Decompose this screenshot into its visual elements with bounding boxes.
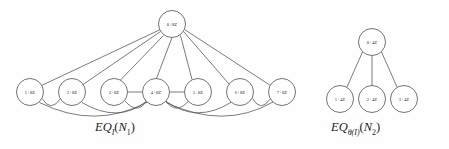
figure-container: 0+8Z 1+8Z 2+8Z 3+8Z 4+8Z 5+8Z xyxy=(0,0,449,149)
edge-0-to-5 xyxy=(181,36,193,80)
node-2-8z-label: 2+8Z xyxy=(67,90,77,95)
node-5-8z[interactable]: 5+8Z xyxy=(185,79,212,106)
node-0-8z[interactable]: 0+8Z xyxy=(159,11,186,38)
edge-0-to-7 xyxy=(185,30,271,86)
node-3-8z-label: 3+8Z xyxy=(109,90,119,95)
node-4-8z-label: 4+8Z xyxy=(151,90,161,95)
caption-right-graph: EQθ(I)(N2) xyxy=(331,121,380,137)
right-graph-straight-edges xyxy=(347,52,398,88)
node-7-8z[interactable]: 7+8Z xyxy=(269,79,296,106)
node-2-8z[interactable]: 2+8Z xyxy=(59,79,86,106)
node-1-4z[interactable]: 1+4Z xyxy=(327,86,354,113)
caption-right-paren-close: ) xyxy=(376,120,380,134)
caption-right-prefix: EQ xyxy=(331,120,348,134)
node-3-4z-label: 3+4Z xyxy=(399,97,409,102)
caption-left-graph: EQI(N1) xyxy=(95,121,135,137)
node-2-4z[interactable]: 2+4Z xyxy=(359,86,386,113)
caption-left-paren-close: ) xyxy=(131,120,135,134)
node-3-4z[interactable]: 3+4Z xyxy=(391,86,418,113)
edge-0-to-3 xyxy=(121,36,164,81)
left-graph: 0+8Z 1+8Z 2+8Z 3+8Z 4+8Z 5+8Z xyxy=(17,11,296,117)
node-6-8z-label: 6+8Z xyxy=(235,90,245,95)
node-3-8z[interactable]: 3+8Z xyxy=(101,79,128,106)
caption-right-subscript: θ(I) xyxy=(348,128,360,137)
graph-diagram-canvas: 0+8Z 1+8Z 2+8Z 3+8Z 4+8Z 5+8Z xyxy=(0,0,449,149)
node-1-8z[interactable]: 1+8Z xyxy=(17,79,44,106)
node-0-4z-label: 0+4Z xyxy=(367,40,377,45)
node-7-8z-label: 7+8Z xyxy=(277,90,287,95)
node-1-4z-label: 1+4Z xyxy=(335,97,345,102)
node-5-8z-label: 5+8Z xyxy=(193,90,203,95)
right-graph: 0+4Z 1+4Z 2+4Z 3+4Z xyxy=(327,29,418,113)
caption-right-argument: N xyxy=(364,120,372,134)
node-1-8z-label: 1+8Z xyxy=(25,90,35,95)
caption-left-prefix: EQ xyxy=(95,120,112,134)
edge-0-to-2 xyxy=(83,32,161,85)
node-4-8z[interactable]: 4+8Z xyxy=(143,79,170,106)
edge-0-to-3-right xyxy=(382,52,398,88)
node-0-4z[interactable]: 0+4Z xyxy=(359,29,386,56)
node-2-4z-label: 2+4Z xyxy=(367,97,377,102)
node-6-8z[interactable]: 6+8Z xyxy=(227,79,254,106)
edge-0-to-4 xyxy=(157,38,173,79)
node-0-8z-label: 0+8Z xyxy=(167,22,177,27)
edge-0-to-1-right xyxy=(347,52,363,88)
edge-0-to-6 xyxy=(184,32,230,85)
caption-left-argument: N xyxy=(119,120,127,134)
